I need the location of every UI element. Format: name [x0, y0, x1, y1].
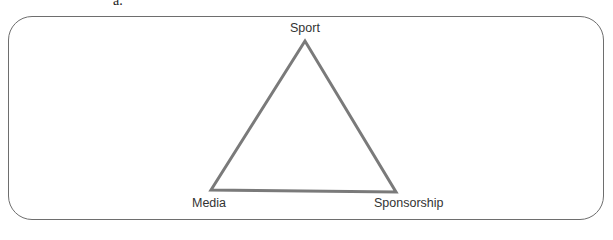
- triangle-shape: [211, 41, 396, 192]
- node-label-sponsorship: Sponsorship: [374, 196, 444, 210]
- node-label-media: Media: [192, 196, 226, 210]
- node-label-sport: Sport: [290, 21, 320, 35]
